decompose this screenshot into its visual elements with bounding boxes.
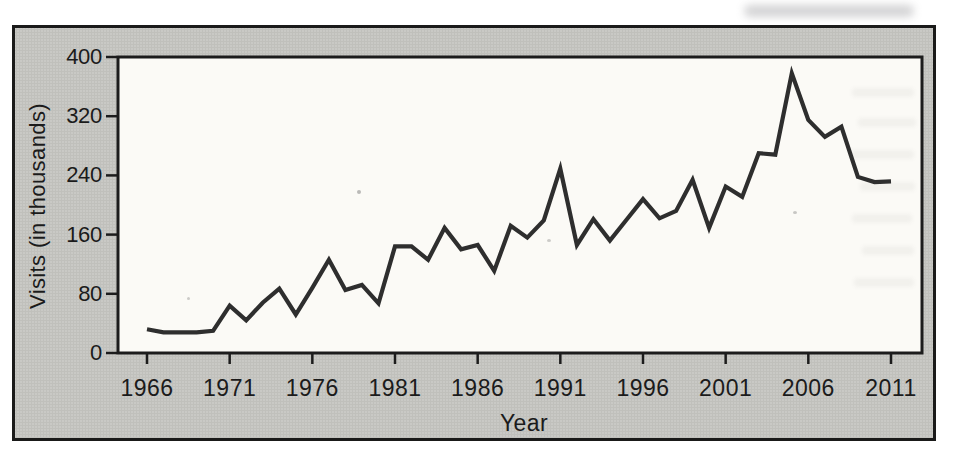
scan-artifact xyxy=(547,239,551,242)
scan-artifact xyxy=(852,88,914,97)
y-tick-label: 0 xyxy=(90,340,102,365)
scan-artifact xyxy=(860,182,915,191)
scan-artifact xyxy=(850,150,914,159)
x-tick-label: 1996 xyxy=(616,375,669,401)
scan-artifact xyxy=(858,118,916,127)
y-tick-label: 400 xyxy=(66,44,102,69)
x-tick-label: 1986 xyxy=(451,375,504,401)
scan-artifact xyxy=(793,211,797,214)
y-tick-label: 320 xyxy=(66,103,102,128)
x-tick-label: 1971 xyxy=(203,375,256,401)
y-axis-title: Visits (in thousands) xyxy=(25,103,51,309)
page: 0801602403204001966197119761981198619911… xyxy=(0,0,954,451)
y-tick-label: 80 xyxy=(78,281,102,306)
scan-artifact xyxy=(187,297,190,300)
chart-canvas: 0801602403204001966197119761981198619911… xyxy=(0,0,954,451)
x-tick-label: 2001 xyxy=(699,375,752,401)
scan-artifact xyxy=(852,214,912,223)
x-axis-title: Year xyxy=(500,410,548,437)
scan-artifact xyxy=(357,190,361,194)
x-tick-label: 2006 xyxy=(782,375,835,401)
y-tick-label: 160 xyxy=(66,222,102,247)
x-tick-label: 1981 xyxy=(368,375,421,401)
x-tick-label: 1976 xyxy=(286,375,339,401)
x-tick-label: 1991 xyxy=(534,375,587,401)
scan-artifact xyxy=(854,278,914,287)
x-tick-label: 2011 xyxy=(865,375,916,401)
y-tick-label: 240 xyxy=(66,162,102,187)
scan-artifact xyxy=(862,246,914,255)
x-tick-label: 1966 xyxy=(120,375,173,401)
